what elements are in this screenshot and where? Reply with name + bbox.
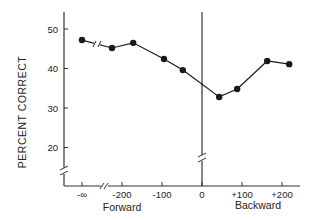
data-point-marker <box>161 56 167 62</box>
data-series <box>79 37 293 100</box>
data-point-marker <box>264 58 270 64</box>
y-tick-label: 20 <box>47 142 58 153</box>
data-point-marker <box>216 94 222 100</box>
axis-ticks: 20304050-∞-200-1000+100+200 <box>47 24 292 201</box>
y-axis-title: PERCENT CORRECT <box>16 56 28 168</box>
data-point-marker <box>180 67 186 73</box>
data-point-marker <box>109 45 115 51</box>
x-tick-label: -200 <box>112 189 131 200</box>
data-point-marker <box>79 37 85 43</box>
y-tick-label: 30 <box>47 103 58 114</box>
data-point-marker <box>286 61 292 67</box>
data-point-marker <box>234 86 240 92</box>
y-tick-label: 40 <box>47 63 58 74</box>
data-point-marker <box>130 40 136 46</box>
y-tick-label: 50 <box>47 24 58 35</box>
x-axis-break-mark <box>104 183 108 189</box>
x-group-label-forward: Forward <box>103 201 142 213</box>
x-group-label-backward: Backward <box>235 199 281 211</box>
axes <box>60 12 300 189</box>
x-tick-label: -100 <box>152 189 171 200</box>
x-tick-label: -∞ <box>77 189 87 200</box>
line-chart: 20304050-∞-200-1000+100+200 PERCENT CORR… <box>0 0 315 220</box>
x-tick-label: 0 <box>199 189 204 200</box>
